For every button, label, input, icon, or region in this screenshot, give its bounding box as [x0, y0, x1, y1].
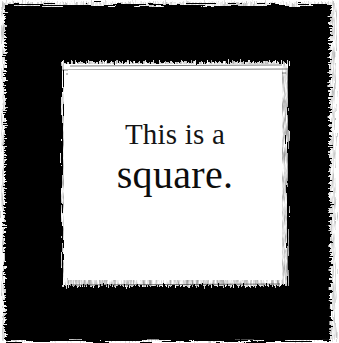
caption-text-block: This is a square.	[62, 120, 288, 195]
caption-line-one: This is a	[62, 120, 288, 149]
artwork-canvas: This is a square.	[0, 0, 339, 343]
caption-line-two: square.	[62, 155, 288, 195]
